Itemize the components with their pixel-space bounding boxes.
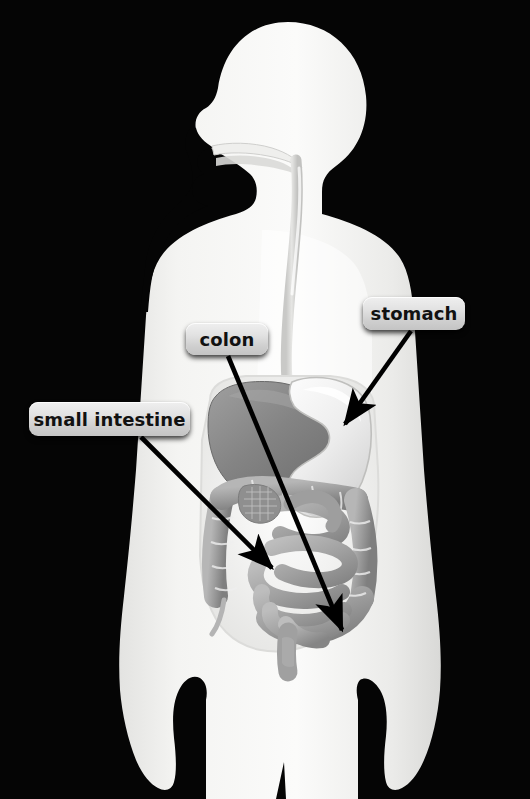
label-small-intestine[interactable]: small intestine [29,402,190,436]
label-stomach[interactable]: stomach [363,297,465,330]
label-small-intestine-text: small intestine [33,409,185,430]
label-colon[interactable]: colon [186,323,268,355]
rectum [282,632,294,672]
diagram-artwork [0,0,530,799]
digestive-system-diagram: stomach colon small intestine [0,0,530,799]
label-stomach-text: stomach [371,303,458,324]
label-colon-text: colon [200,329,255,350]
